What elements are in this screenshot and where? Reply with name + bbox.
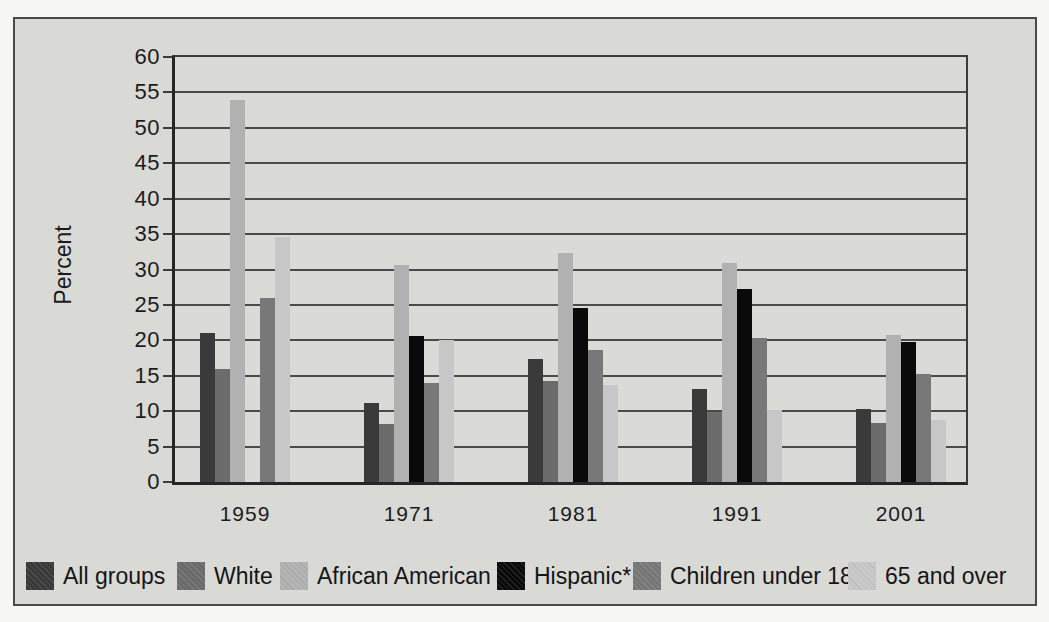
white-swatch-icon bbox=[177, 562, 205, 590]
bar-1981-children-under-18 bbox=[588, 350, 603, 482]
y-tick-label: 0 bbox=[104, 470, 160, 494]
y-tick-mark bbox=[163, 233, 172, 235]
bar-1981-hispanic bbox=[573, 308, 588, 482]
bar-2001-hispanic bbox=[901, 342, 916, 482]
bar-1959-african-american bbox=[230, 100, 245, 483]
y-tick-mark bbox=[163, 339, 172, 341]
x-axis-label-1971: 1971 bbox=[359, 502, 459, 526]
bar-1971-hispanic bbox=[409, 336, 424, 482]
y-tick-mark bbox=[163, 375, 172, 377]
y-tick-mark bbox=[163, 304, 172, 306]
children-under-18-swatch-icon bbox=[633, 562, 661, 590]
y-tick-label: 40 bbox=[104, 187, 160, 211]
gridline bbox=[175, 127, 966, 129]
bar-1991-children-under-18 bbox=[752, 338, 767, 483]
x-axis-label-1959: 1959 bbox=[195, 502, 295, 526]
y-tick-label: 15 bbox=[104, 364, 160, 388]
bar-1959-65-and-over bbox=[275, 237, 290, 482]
legend-label: Children under 18 bbox=[670, 563, 853, 590]
bar-1991-65-and-over bbox=[767, 410, 782, 482]
y-tick-label: 35 bbox=[104, 222, 160, 246]
bar-2001-65-and-over bbox=[931, 420, 946, 482]
gridline bbox=[175, 162, 966, 164]
y-tick-label: 10 bbox=[104, 399, 160, 423]
bar-1971-white bbox=[379, 424, 394, 482]
y-tick-mark bbox=[163, 410, 172, 412]
y-tick-mark bbox=[163, 162, 172, 164]
bar-1981-white bbox=[543, 381, 558, 482]
bar-1971-65-and-over bbox=[439, 340, 454, 482]
y-tick-label: 50 bbox=[104, 116, 160, 140]
chart-figure: Percent 605550454035302520151050 1959197… bbox=[0, 0, 1049, 622]
gridline bbox=[175, 91, 966, 93]
x-axis-label-2001: 2001 bbox=[851, 502, 951, 526]
legend-item-children-under-18: Children under 18 bbox=[633, 562, 853, 590]
legend-label: Hispanic* bbox=[534, 563, 631, 590]
bar-1981-african-american bbox=[558, 253, 573, 483]
bar-2001-all-groups bbox=[856, 409, 871, 482]
legend-item-white: White bbox=[177, 562, 273, 590]
plot-area bbox=[172, 55, 968, 485]
bar-1959-white bbox=[215, 369, 230, 482]
legend-item-hispanic: Hispanic* bbox=[497, 562, 631, 590]
bar-1981-all-groups bbox=[528, 359, 543, 482]
y-tick-mark bbox=[163, 481, 172, 483]
legend-item-65-and-over: 65 and over bbox=[848, 562, 1006, 590]
bar-1991-all-groups bbox=[692, 389, 707, 483]
bar-2001-children-under-18 bbox=[916, 374, 931, 482]
legend-item-all-groups: All groups bbox=[26, 562, 165, 590]
y-tick-label: 55 bbox=[104, 80, 160, 104]
african-american-swatch-icon bbox=[280, 562, 308, 590]
bar-1991-african-american bbox=[722, 263, 737, 482]
bar-1971-african-american bbox=[394, 265, 409, 482]
y-tick-label: 45 bbox=[104, 151, 160, 175]
x-axis-label-1991: 1991 bbox=[687, 502, 787, 526]
y-tick-mark bbox=[163, 127, 172, 129]
bar-2001-white bbox=[871, 423, 886, 483]
y-tick-mark bbox=[163, 446, 172, 448]
y-tick-mark bbox=[163, 56, 172, 58]
y-tick-label: 60 bbox=[104, 45, 160, 69]
y-axis-title: Percent bbox=[28, 220, 98, 310]
bar-1981-65-and-over bbox=[603, 385, 618, 482]
y-tick-mark bbox=[163, 269, 172, 271]
bar-1971-children-under-18 bbox=[424, 383, 439, 482]
y-tick-mark bbox=[163, 91, 172, 93]
bar-1959-children-under-18 bbox=[260, 298, 275, 482]
bar-1991-hispanic bbox=[737, 289, 752, 482]
x-axis-label-1981: 1981 bbox=[523, 502, 623, 526]
hispanic-swatch-icon bbox=[497, 562, 525, 590]
legend-item-african-american: African American bbox=[280, 562, 491, 590]
bar-1991-white bbox=[707, 412, 722, 482]
y-tick-label: 30 bbox=[104, 258, 160, 282]
gridline bbox=[175, 198, 966, 200]
legend-label: 65 and over bbox=[885, 563, 1006, 590]
bar-1971-all-groups bbox=[364, 403, 379, 482]
65-and-over-swatch-icon bbox=[848, 562, 876, 590]
gridline bbox=[175, 233, 966, 235]
bar-2001-african-american bbox=[886, 335, 901, 482]
y-tick-label: 5 bbox=[104, 435, 160, 459]
bar-1959-all-groups bbox=[200, 333, 215, 482]
legend-label: White bbox=[214, 563, 273, 590]
y-tick-label: 20 bbox=[104, 328, 160, 352]
legend-label: African American bbox=[317, 563, 491, 590]
y-tick-label: 25 bbox=[104, 293, 160, 317]
all-groups-swatch-icon bbox=[26, 562, 54, 590]
y-tick-mark bbox=[163, 198, 172, 200]
legend-label: All groups bbox=[63, 563, 165, 590]
